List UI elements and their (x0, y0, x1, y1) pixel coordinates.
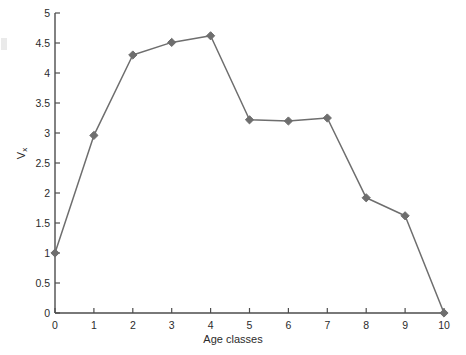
y-tick-label: 5 (8, 8, 50, 19)
figure-container: 00.511.522.533.544.55 012345678910 Age c… (0, 0, 466, 355)
data-point-marker (245, 116, 253, 124)
data-point-marker (207, 32, 215, 40)
x-tick-label: 0 (52, 320, 58, 331)
y-tick-label: 1 (8, 248, 50, 259)
y-tick-label: 1.5 (8, 218, 50, 229)
y-tick-label: 4 (8, 68, 50, 79)
x-tick-label: 10 (438, 320, 450, 331)
y-tick-label: 2.5 (8, 158, 50, 169)
data-series-line (55, 36, 444, 313)
x-tick-label: 8 (363, 320, 369, 331)
y-axis-title-text: V (15, 152, 27, 159)
x-tick-label: 2 (130, 320, 136, 331)
data-point-marker (129, 51, 137, 59)
x-axis-ticks (55, 308, 444, 313)
data-point-markers (51, 32, 448, 317)
y-tick-label: 4.5 (8, 38, 50, 49)
y-tick-label: 2 (8, 188, 50, 199)
data-point-marker (401, 212, 409, 220)
x-tick-label: 6 (285, 320, 291, 331)
y-axis-title-subscript: x (20, 148, 29, 152)
data-point-marker (90, 131, 98, 139)
y-tick-label: 3 (8, 128, 50, 139)
y-axis-title: Vx (16, 139, 27, 169)
data-point-marker (323, 114, 331, 122)
y-tick-label: 0 (8, 308, 50, 319)
y-tick-label: 0.5 (8, 278, 50, 289)
data-point-marker (440, 309, 448, 317)
data-point-marker (168, 38, 176, 46)
x-tick-label: 3 (169, 320, 175, 331)
x-tick-label: 5 (247, 320, 253, 331)
line-chart-canvas (0, 0, 466, 355)
data-point-marker (362, 194, 370, 202)
x-tick-label: 9 (402, 320, 408, 331)
data-point-marker (51, 249, 59, 257)
axes-group (55, 13, 444, 313)
data-point-marker (284, 117, 292, 125)
x-tick-label: 4 (208, 320, 214, 331)
y-tick-label: 3.5 (8, 98, 50, 109)
x-tick-label: 1 (91, 320, 97, 331)
y-axis-ticks (55, 13, 60, 313)
x-axis-title: Age classes (0, 334, 466, 345)
x-tick-label: 7 (324, 320, 330, 331)
